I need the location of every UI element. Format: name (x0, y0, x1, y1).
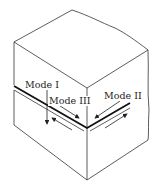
mode3-label: Mode III (48, 96, 91, 106)
top-face (14, 10, 148, 88)
mode2-label: Mode II (103, 91, 143, 101)
crack-modes-diagram: Mode I Mode III Mode II (0, 0, 160, 185)
mode1-label: Mode I (24, 80, 60, 90)
